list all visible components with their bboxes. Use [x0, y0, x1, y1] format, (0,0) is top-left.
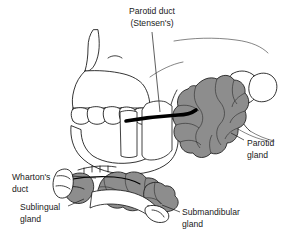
- label-submandibular-gland-line1: Submandibular: [182, 207, 240, 217]
- salivary-gland-diagram: Parotid duct (Stensen's) Parotid gland W…: [0, 0, 299, 237]
- label-parotid-duct-line2: (Stensen's): [130, 18, 173, 28]
- label-parotid-gland-line1: Parotid: [247, 138, 274, 148]
- label-whartons-duct-line1: Wharton's: [12, 172, 50, 182]
- maxillary-teeth: [71, 107, 151, 125]
- label-parotid-gland-line2: gland: [247, 150, 268, 160]
- label-whartons-duct-line2: duct: [12, 184, 29, 194]
- label-sublingual-gland-line2: gland: [20, 214, 41, 224]
- mandible-symphysis: [53, 169, 73, 198]
- label-parotid-duct-line1: Parotid duct: [129, 6, 175, 16]
- label-submandibular-gland-line2: gland: [182, 219, 203, 229]
- label-sublingual-gland-line1: Sublingual: [20, 202, 60, 212]
